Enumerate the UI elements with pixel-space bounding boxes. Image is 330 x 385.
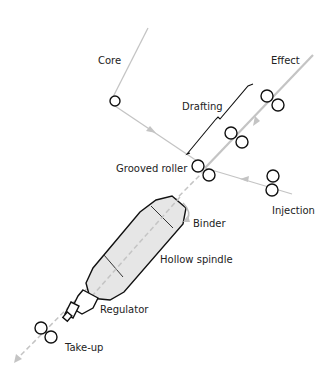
label-regulator: Regulator: [100, 304, 149, 315]
injection-rollers: [266, 170, 279, 196]
label-binder: Binder: [193, 218, 226, 229]
output-arrow-icon: [14, 354, 22, 363]
injection-arrow-icon: [240, 176, 249, 182]
hollow-spindle: [86, 196, 190, 300]
regulator: [63, 290, 98, 321]
label-hollow-spindle: Hollow spindle: [160, 254, 233, 265]
injection-yarn-path: [205, 168, 292, 194]
effect-rollers: [261, 90, 284, 111]
spinning-diagram: Core Effect Drafting Grooved roller Inje…: [0, 0, 330, 385]
label-injection: Injection: [272, 205, 315, 216]
label-core: Core: [98, 55, 121, 66]
label-drafting: Drafting: [182, 101, 223, 112]
core-yarn-path: [113, 28, 200, 163]
take-up-rollers: [35, 322, 57, 343]
label-take-up: Take-up: [64, 342, 103, 353]
label-effect: Effect: [271, 55, 300, 66]
core-guide-roller: [110, 96, 120, 106]
label-grooved-roller: Grooved roller: [116, 163, 188, 174]
